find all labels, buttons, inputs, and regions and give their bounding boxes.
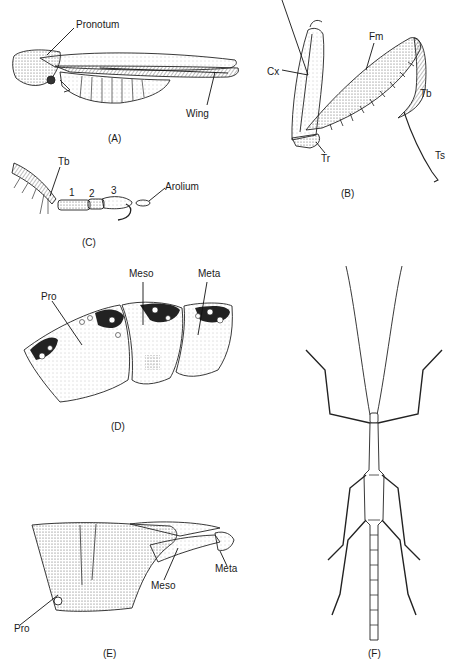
caption-e: (E): [103, 648, 116, 659]
label-pro-d: Pro: [41, 291, 57, 302]
label-ts-tarsus: Ts: [435, 150, 445, 161]
caption-f: (F): [368, 648, 381, 659]
caption-c: (C): [82, 237, 96, 248]
label-wing: Wing: [186, 108, 209, 119]
label-pro-e: Pro: [14, 623, 30, 634]
panel-b-raptorial-leg-drawing: [282, 0, 438, 182]
caption-b: (B): [341, 188, 354, 199]
label-tr-trochanter: Tr: [321, 153, 330, 164]
label-meso-e: Meso: [151, 580, 175, 591]
caption-a: (A): [108, 133, 121, 144]
label-tarsomere-2: 2: [89, 188, 95, 199]
label-tarsomere-1: 1: [69, 187, 75, 198]
caption-d: (D): [111, 421, 125, 432]
label-tarsomere-3: 3: [111, 185, 117, 196]
panel-e-thoracic-sterna-drawing: [20, 522, 234, 625]
label-meta-d: Meta: [198, 268, 220, 279]
panel-a-grasshopper-drawing: [13, 28, 239, 105]
label-cx-coxa: Cx: [267, 66, 279, 77]
label-fm-femur: Fm: [369, 31, 383, 42]
panel-f-walking-stick-drawing: [306, 266, 442, 640]
label-meta-e: Meta: [215, 563, 237, 574]
label-meso-d: Meso: [129, 268, 153, 279]
label-tb-tibia-c: Tb: [58, 156, 70, 167]
label-pronotum: Pronotum: [76, 19, 119, 30]
label-arolium: Arolium: [165, 181, 199, 192]
label-tb-tibia: Tb: [420, 88, 432, 99]
